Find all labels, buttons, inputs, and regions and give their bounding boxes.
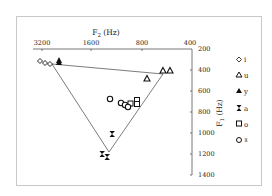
y-tick-label: 400 <box>198 66 210 74</box>
svg-text:o: o <box>244 121 248 129</box>
series-y <box>56 57 62 65</box>
vowel-chart: 3200 1600 800 400 F2 (Hz) 200 400 600 80… <box>0 0 272 196</box>
svg-text:i: i <box>244 56 247 64</box>
x-tick-label: 800 <box>136 39 148 47</box>
legend: i u y a o ɤ <box>236 56 249 144</box>
y-tick-label: 1000 <box>198 129 215 137</box>
x-tick-label: 1600 <box>83 39 100 47</box>
svg-text:y: y <box>243 88 248 96</box>
legend-item-o: o <box>237 121 249 129</box>
svg-text:u: u <box>244 72 249 80</box>
series-gamma <box>107 96 130 109</box>
y-axis-title: F1 (Hz) <box>215 99 225 127</box>
series-i <box>38 59 53 67</box>
series-u <box>144 68 173 82</box>
x-tick-label: 3200 <box>34 39 51 47</box>
y-tick-label: 600 <box>198 87 210 95</box>
x-axis-title: F2 (Hz) <box>92 28 120 38</box>
y-tick-label: 1400 <box>198 171 215 179</box>
legend-item-i: i <box>237 56 248 64</box>
svg-text:a: a <box>244 105 248 113</box>
x-tick-label: 400 <box>184 39 196 47</box>
svg-text:ɤ: ɤ <box>244 136 248 144</box>
legend-item-u: u <box>236 72 249 80</box>
series-a <box>100 131 116 160</box>
legend-item-y: y <box>236 88 248 96</box>
y-axis: 200 400 600 800 1000 1200 1400 F1 (Hz) <box>190 45 225 179</box>
x-axis: 3200 1600 800 400 F2 (Hz) <box>33 28 196 51</box>
legend-item-gamma: ɤ <box>237 136 249 144</box>
y-tick-label: 800 <box>198 108 210 116</box>
y-tick-label: 1200 <box>198 150 215 158</box>
legend-item-a: a <box>237 105 249 113</box>
y-tick-label: 200 <box>198 45 210 53</box>
